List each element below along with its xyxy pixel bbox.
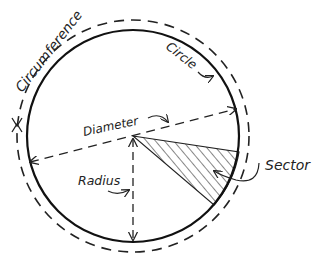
- circle-leader-arrow: [198, 72, 213, 77]
- sector-region: [133, 136, 239, 205]
- radius-label: Radius: [78, 173, 121, 188]
- diameter-leader-arrow: [148, 116, 168, 122]
- sector-label: Sector: [265, 157, 311, 173]
- circle-label: Circle: [163, 39, 200, 73]
- radius-leader-arrow: [108, 190, 129, 193]
- circle-diagram: Circumference Circle Diameter Radius Sec…: [0, 0, 318, 263]
- circumference-label: Circumference: [12, 7, 86, 95]
- diameter-label: Diameter: [82, 113, 141, 139]
- circumference-tick-icon: [12, 118, 22, 132]
